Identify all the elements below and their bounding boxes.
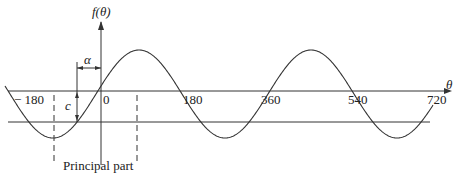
tick-label-360: 360 xyxy=(261,92,281,107)
tick-label-neg180: − 180 xyxy=(14,92,44,107)
tick-label-0: 0 xyxy=(103,92,110,107)
alpha-arrow-right-icon xyxy=(95,66,101,70)
alpha-label: α xyxy=(84,52,92,67)
c-arrow-top-icon xyxy=(75,92,79,98)
tick-label-180: 180 xyxy=(183,92,203,107)
c-label: c xyxy=(65,98,71,113)
sinusoid-diagram: f(θ) θ α c − 180 0 180 360 540 720 Princ… xyxy=(0,0,458,178)
tick-label-720: 720 xyxy=(427,92,447,107)
tick-label-540: 540 xyxy=(348,92,368,107)
principal-part-label: Principal part xyxy=(63,158,134,173)
sinusoid-curve xyxy=(5,50,433,138)
alpha-arrow-left-icon xyxy=(77,66,83,70)
f-axis-arrow-icon xyxy=(98,21,104,30)
y-axis-label: f(θ) xyxy=(92,4,111,19)
x-axis-label: θ xyxy=(446,77,453,92)
